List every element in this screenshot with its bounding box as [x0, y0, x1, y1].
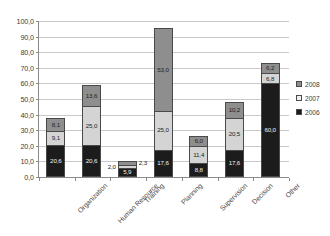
- bar-segment[interactable]: 10,2: [225, 102, 244, 118]
- bar-segment-label: 20,6: [86, 158, 97, 164]
- bar-segment[interactable]: 8,8: [189, 163, 208, 177]
- bar-segment-label: 2,0: [108, 164, 116, 170]
- legend-label: 2008: [305, 81, 320, 88]
- bar-group[interactable]: 8,19,120,6: [46, 118, 65, 177]
- bar-segment[interactable]: 25,0: [82, 106, 101, 145]
- y-tick-label: 100,0: [0, 17, 34, 26]
- y-tick-label: 20,0: [0, 142, 34, 151]
- bar-group[interactable]: 2,32,05,9: [118, 161, 137, 177]
- x-axis-label: Planning: [180, 182, 204, 206]
- bar-segment[interactable]: 6,2: [261, 63, 280, 73]
- bar-segment[interactable]: 20,5: [225, 118, 244, 150]
- bar-segment-label: 6,0: [195, 138, 203, 144]
- y-tick-label: 60,0: [0, 79, 34, 88]
- bar-segment[interactable]: 25,0: [154, 111, 173, 150]
- bar-segment[interactable]: 6,8: [261, 73, 280, 84]
- bar-segment[interactable]: 20,6: [46, 145, 65, 177]
- x-axis-label: Organization: [76, 182, 108, 214]
- bar-segment-label: 20,5: [229, 131, 240, 137]
- x-axis-label: Decision: [251, 182, 274, 205]
- bar-segment-label: 25,0: [86, 123, 97, 129]
- stacked-bar-chart: 100,090,080,070,060,050,040,030,020,010,…: [0, 0, 330, 236]
- bar-segment-label: 6,2: [266, 65, 274, 71]
- bar-segment[interactable]: 17,6: [154, 150, 173, 177]
- y-tick-label: 80,0: [0, 48, 34, 57]
- bar-segment-label: 8,8: [195, 167, 203, 173]
- bar-segment[interactable]: 9,1: [46, 131, 65, 145]
- bar-segment-label: 11,4: [193, 152, 204, 158]
- bar-segment[interactable]: 17,6: [225, 150, 244, 177]
- bar-segment-label: 10,2: [229, 107, 240, 113]
- legend-label: 2007: [305, 95, 320, 102]
- bar-segment[interactable]: 13,6: [82, 85, 101, 106]
- legend-swatch-icon: [296, 81, 302, 87]
- legend-item[interactable]: 2007: [296, 92, 330, 104]
- x-axis: OrganizationHuman ResourceTrainingPlanni…: [0, 180, 330, 236]
- y-tick-label: 40,0: [0, 111, 34, 120]
- legend-item[interactable]: 2008: [296, 78, 330, 90]
- x-axis-label: Other: [284, 182, 301, 199]
- bar-segment[interactable]: 20,6: [82, 145, 101, 177]
- bar-group[interactable]: 10,220,517,6: [225, 102, 244, 177]
- y-tick-label: 90,0: [0, 33, 34, 42]
- bar-segment-label: 8,1: [52, 122, 60, 128]
- bar-segment[interactable]: 5,9: [118, 168, 137, 177]
- legend-item[interactable]: 2006: [296, 106, 330, 118]
- bar-segment-label: 17,6: [229, 160, 240, 166]
- bar-segment[interactable]: 6,0: [189, 136, 208, 145]
- legend-label: 2006: [305, 109, 320, 116]
- bar-segment[interactable]: 60,0: [261, 83, 280, 177]
- bar-segment[interactable]: 53,0: [154, 28, 173, 111]
- bar-segment-label: 17,6: [157, 160, 168, 166]
- y-tick-label: 30,0: [0, 126, 34, 135]
- bar-group[interactable]: 6,26,860,0: [261, 63, 280, 177]
- bar-segment[interactable]: 11,4: [189, 146, 208, 164]
- bars-layer: 8,19,120,613,625,020,62,32,05,953,025,01…: [38, 21, 288, 177]
- bar-segment[interactable]: 8,1: [46, 118, 65, 131]
- bar-segment-label: 5,9: [123, 169, 131, 175]
- bar-group[interactable]: 13,625,020,6: [82, 85, 101, 177]
- bar-segment-label: 60,0: [264, 127, 275, 133]
- bar-group[interactable]: 6,011,48,8: [189, 136, 208, 177]
- y-tick-label: 10,0: [0, 157, 34, 166]
- bar-segment-label: 20,6: [50, 158, 61, 164]
- bar-segment-label: 2,3: [139, 160, 147, 166]
- legend-swatch-icon: [296, 95, 302, 101]
- bar-group[interactable]: 53,025,017,6: [154, 28, 173, 177]
- bar-segment-label: 6,8: [266, 76, 274, 82]
- bar-segment-label: 13,6: [86, 93, 97, 99]
- bar-segment-label: 9,1: [52, 135, 60, 141]
- y-tick-label: 70,0: [0, 64, 34, 73]
- x-axis-label: Supervision: [218, 182, 248, 212]
- bar-segment-label: 53,0: [157, 67, 168, 73]
- legend-swatch-icon: [296, 109, 302, 115]
- bar-segment-label: 25,0: [157, 127, 168, 133]
- y-tick-label: 50,0: [0, 95, 34, 104]
- legend: 200820072006: [296, 78, 330, 120]
